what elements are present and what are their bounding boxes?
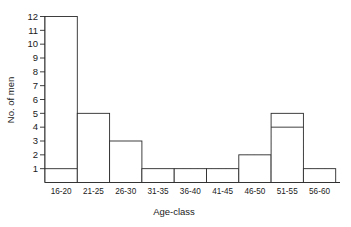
histogram-chart: 123456789101112 16-2021-2526-3031-3536-4…	[0, 0, 351, 227]
bar-outline	[239, 155, 271, 183]
x-category-label: 26-30	[115, 187, 136, 196]
bar-outline	[207, 169, 239, 183]
x-category-label: 51-55	[277, 187, 298, 196]
y-tick-label: 1	[33, 163, 38, 174]
y-tick-label: 8	[33, 66, 38, 77]
x-axis-category-labels: 16-2021-2526-3031-3536-4041-4546-5051-55…	[51, 187, 331, 196]
bar-outline	[271, 113, 303, 182]
y-tick-label: 4	[33, 121, 38, 132]
bar-outline	[303, 169, 335, 183]
bar-outline	[45, 17, 77, 183]
x-category-label: 56-60	[309, 187, 330, 196]
y-tick-label: 3	[33, 135, 38, 146]
y-tick-label: 5	[33, 108, 38, 119]
y-axis-tick-marks	[40, 17, 45, 169]
y-tick-label: 11	[28, 25, 38, 36]
x-category-label: 21-25	[83, 187, 104, 196]
bars-layer	[45, 17, 336, 183]
x-category-label: 31-35	[148, 187, 169, 196]
x-category-label: 41-45	[212, 187, 233, 196]
x-axis-title: Age-class	[153, 206, 195, 217]
y-tick-label: 12	[27, 11, 38, 22]
bar-outline	[174, 169, 206, 183]
histogram-svg: 123456789101112 16-2021-2526-3031-3536-4…	[0, 0, 351, 227]
y-tick-label: 9	[33, 52, 38, 63]
x-category-label: 36-40	[180, 187, 201, 196]
y-tick-label: 6	[33, 94, 38, 105]
x-category-label: 46-50	[244, 187, 265, 196]
x-category-label: 16-20	[51, 187, 72, 196]
y-tick-label: 2	[33, 149, 38, 160]
y-axis-tick-labels: 123456789101112	[27, 11, 38, 174]
bar-outline	[142, 169, 174, 183]
y-axis-title: No. of men	[5, 77, 16, 123]
y-tick-label: 7	[33, 80, 38, 91]
y-tick-label: 10	[27, 38, 38, 49]
bar-outline	[110, 141, 142, 183]
bar-outline	[77, 113, 109, 182]
